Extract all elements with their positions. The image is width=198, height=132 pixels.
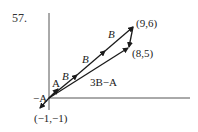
label-point-9-6: (9,6)	[136, 18, 157, 29]
problem-number: 57.	[12, 12, 27, 24]
label-neg-A: −A	[33, 93, 47, 104]
label-point-8-5: (8,5)	[132, 48, 153, 59]
label-B-1: B	[62, 71, 69, 82]
label-B-3: B	[108, 29, 115, 40]
label-B-2: B	[82, 54, 89, 65]
vector-diagram	[0, 0, 198, 132]
label-A: A	[52, 78, 60, 89]
label-point-neg1-neg1: (−1,−1)	[34, 113, 67, 124]
label-3B-minus-A: 3B−A	[90, 77, 117, 88]
